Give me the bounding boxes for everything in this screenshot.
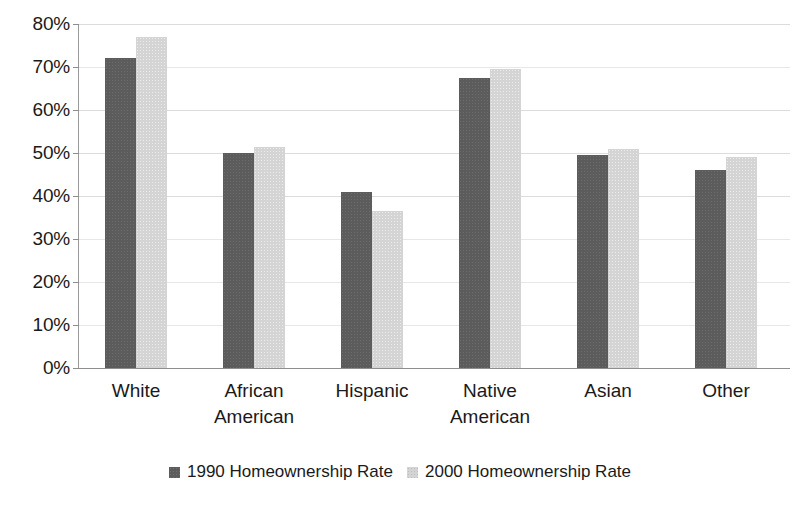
x-label-african-american-line2: American xyxy=(194,404,314,430)
y-tick-label-10: 10% xyxy=(33,314,70,336)
bar-group-other xyxy=(695,24,757,368)
y-tick-label-40: 40% xyxy=(33,185,70,207)
bar-1990-asian xyxy=(577,155,608,368)
bar-group-asian xyxy=(577,24,639,368)
bar-group-african-american xyxy=(223,24,285,368)
y-tick-label-0: 0% xyxy=(43,357,70,379)
legend-entry-2000: 2000 Homeownership Rate xyxy=(407,462,631,482)
bar-group-native-american xyxy=(459,24,521,368)
x-label-other: Other xyxy=(666,378,786,404)
x-label-asian-line1: Asian xyxy=(584,380,632,401)
x-label-other-line1: Other xyxy=(702,380,750,401)
y-tick-0 xyxy=(73,368,79,369)
x-label-native-american-line2: American xyxy=(430,404,550,430)
bar-2000-asian xyxy=(608,149,639,368)
y-tick-label-60: 60% xyxy=(33,99,70,121)
bar-1990-other xyxy=(695,170,726,368)
y-tick-label-80: 80% xyxy=(33,13,70,35)
y-tick-label-70: 70% xyxy=(33,56,70,78)
bar-2000-hispanic xyxy=(372,211,403,368)
x-label-native-american: Native American xyxy=(430,378,550,430)
legend-swatch-icon-1990 xyxy=(169,467,180,478)
y-axis-labels: 80% 70% 60% 50% 40% 30% 20% 10% 0% xyxy=(0,24,70,368)
x-label-hispanic: Hispanic xyxy=(312,378,432,404)
y-tick-label-50: 50% xyxy=(33,142,70,164)
y-tick-label-30: 30% xyxy=(33,228,70,250)
bar-group-white xyxy=(105,24,167,368)
bar-chart: 80% 70% 60% 50% 40% 30% 20% 10% 0% xyxy=(0,0,800,509)
bar-1990-white xyxy=(105,58,136,368)
bar-2000-white xyxy=(136,37,167,368)
x-label-white-line1: White xyxy=(112,380,161,401)
x-label-native-american-line1: Native xyxy=(463,380,517,401)
bar-group-hispanic xyxy=(341,24,403,368)
y-tick-label-20: 20% xyxy=(33,271,70,293)
legend-label-2000: 2000 Homeownership Rate xyxy=(425,462,631,482)
bar-1990-hispanic xyxy=(341,192,372,368)
x-label-african-american: African American xyxy=(194,378,314,430)
legend-entry-1990: 1990 Homeownership Rate xyxy=(169,462,393,482)
chart-legend: 1990 Homeownership Rate 2000 Homeownersh… xyxy=(0,462,800,482)
bars-layer xyxy=(78,24,790,368)
x-label-african-american-line1: African xyxy=(224,380,283,401)
bar-1990-african-american xyxy=(223,153,254,368)
bar-2000-other xyxy=(726,157,757,368)
legend-swatch-icon-2000 xyxy=(407,467,418,478)
x-label-asian: Asian xyxy=(548,378,668,404)
x-axis-line xyxy=(78,368,790,369)
bar-1990-native-american xyxy=(459,78,490,368)
bar-2000-african-american xyxy=(254,147,285,369)
bar-2000-native-american xyxy=(490,69,521,368)
legend-label-1990: 1990 Homeownership Rate xyxy=(187,462,393,482)
x-label-hispanic-line1: Hispanic xyxy=(336,380,409,401)
x-axis-labels: White African American Hispanic Native A… xyxy=(78,378,790,448)
x-label-white: White xyxy=(76,378,196,404)
